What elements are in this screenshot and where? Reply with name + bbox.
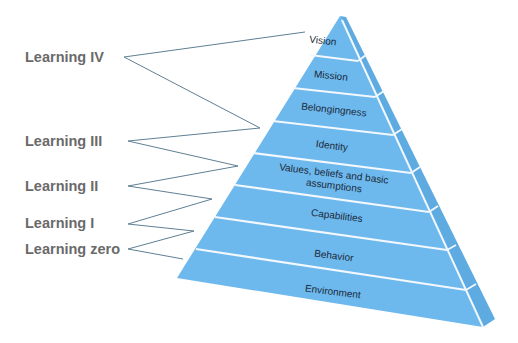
connector-learning-iv <box>124 32 305 128</box>
learning-zero-label: Learning zero <box>25 241 120 257</box>
layer-label-vision: Vision <box>309 34 337 48</box>
learning-ii-label: Learning II <box>25 178 98 194</box>
connector-learning-ii <box>128 166 238 199</box>
learning-iii-label: Learning III <box>25 133 102 149</box>
connector-learning-zero <box>128 231 194 259</box>
learning-i-label: Learning I <box>25 215 94 231</box>
learning-iv-label: Learning IV <box>25 49 104 65</box>
connector-learning-iii <box>128 128 260 166</box>
connector-learning-i <box>128 199 212 231</box>
diagram-canvas: Vision Mission Belongingness Identity Va… <box>0 0 518 343</box>
